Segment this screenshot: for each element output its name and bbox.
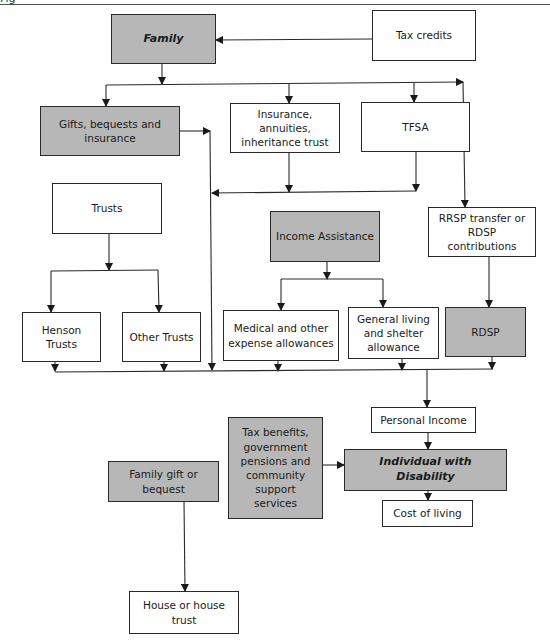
node-medical-allowances: Medical and other expense allowances (223, 310, 339, 361)
node-tax-credits: Tax credits (372, 10, 476, 61)
node-tfsa: TFSA (361, 102, 470, 152)
node-insurance-annuities: Insurance, annuities, inheritance trust (230, 103, 340, 153)
node-trusts: Trusts (52, 183, 162, 234)
node-family-gift: Family gift or bequest (108, 461, 219, 502)
node-tax-benefits: Tax benefits, government pensions and co… (228, 417, 323, 519)
node-other-trusts: Other Trusts (122, 312, 201, 362)
node-personal-income: Personal Income (371, 407, 476, 433)
node-individual-with-disability: Individual with Disability (344, 449, 507, 491)
node-house-trust: House or house trust (129, 591, 239, 634)
node-rrsp-transfer: RRSP transfer or RDSP contributions (428, 207, 536, 257)
node-cost-of-living: Cost of living (382, 500, 473, 527)
node-rdsp: RDSP (445, 307, 526, 357)
node-henson-trusts: Henson Trusts (22, 312, 101, 362)
node-gifts-bequests-insurance: Gifts, bequests and insurance (40, 106, 180, 156)
node-income-assistance: Income Assistance (270, 211, 380, 262)
node-family: Family (111, 14, 216, 64)
node-general-living: General living and shelter allowance (348, 307, 439, 359)
